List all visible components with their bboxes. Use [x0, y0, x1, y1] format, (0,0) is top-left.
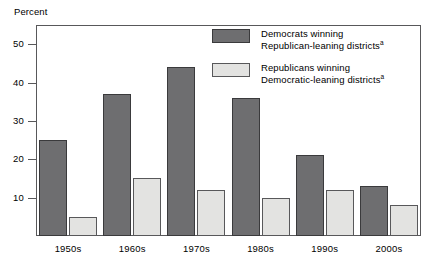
bar-1990s-republicans — [326, 190, 354, 236]
legend-footnote-marker-republicans: a — [380, 72, 384, 79]
x-axis-tick-label: 1980s — [229, 243, 293, 254]
legend-label-republicans: Republicans winning Democratic-leaning d… — [261, 62, 384, 85]
bar-1960s-democrats — [103, 94, 131, 236]
bar-1950s-democrats — [39, 140, 67, 236]
x-axis-tick-label: 1970s — [164, 243, 228, 254]
legend-item-democrats: Democrats winning Republican-leaning dis… — [212, 28, 384, 51]
x-axis-tick-label: 1960s — [100, 243, 164, 254]
legend-item-republicans: Republicans winning Democratic-leaning d… — [212, 62, 384, 85]
bar-2000s-republicans — [390, 205, 418, 236]
bar-chart: Percent 1020304050 1950s1960s1970s1980s1… — [0, 0, 434, 272]
bar-1950s-republicans — [69, 217, 97, 236]
x-axis-tick-label: 1950s — [36, 243, 100, 254]
bar-1970s-republicans — [197, 190, 225, 236]
dark-gray-swatch-icon — [212, 29, 250, 43]
bar-2000s-democrats — [360, 186, 388, 236]
legend-footnote-marker-democrats: a — [380, 38, 384, 45]
x-axis-tick-label: 1990s — [293, 243, 357, 254]
legend-label-republicans-line1: Republicans winning — [261, 62, 350, 73]
legend-label-democrats-line2: Republican-leaning districts — [261, 40, 380, 51]
y-axis-tick-label: 20 — [0, 154, 24, 163]
legend-label-republicans-line2: Democratic-leaning districts — [261, 74, 380, 85]
legend-label-democrats-line1: Democrats winning — [261, 28, 343, 39]
light-gray-swatch-icon — [212, 63, 250, 77]
bar-1980s-republicans — [262, 198, 290, 236]
legend-label-democrats: Democrats winning Republican-leaning dis… — [261, 28, 384, 51]
y-axis-tick-label: 30 — [0, 116, 24, 125]
bar-1990s-democrats — [296, 155, 324, 236]
y-axis-tick-label: 40 — [0, 78, 24, 87]
chart-legend: Democrats winning Republican-leaning dis… — [212, 28, 384, 96]
bar-1980s-democrats — [232, 98, 260, 236]
x-axis-tick-label: 2000s — [357, 243, 421, 254]
bar-1960s-republicans — [133, 178, 161, 236]
bar-1970s-democrats — [167, 67, 195, 236]
y-axis-tick-label: 50 — [0, 39, 24, 48]
y-axis-title: Percent — [14, 6, 47, 17]
y-axis-tick-label: 10 — [0, 193, 24, 202]
